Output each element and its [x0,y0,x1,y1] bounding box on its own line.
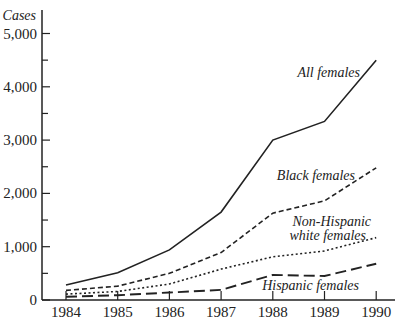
x-tick-label: 1985 [103,304,133,320]
y-tick-label: 3,000 [3,132,37,148]
x-tick-label: 1984 [51,304,82,320]
axes [42,10,395,300]
y-ticks: 01,0002,0003,0004,0005,000 [3,26,50,309]
label-white-females-1: Non-Hispanic [291,214,371,229]
y-axis-title: Cases [3,8,37,23]
line-chart: Cases 01,0002,0003,0004,0005,000 1984198… [0,0,397,325]
y-tick-label: 0 [30,292,38,308]
label-white-females-2: white females [289,228,366,243]
y-tick-label: 5,000 [3,26,37,42]
label-hispanic-females: Hispanic females [261,278,359,293]
x-tick-label: 1990 [361,304,391,320]
x-tick-label: 1986 [154,304,185,320]
x-tick-label: 1987 [206,304,237,320]
y-tick-label: 1,000 [3,239,37,255]
label-all-females: All females [296,65,360,80]
label-black-females: Black females [277,168,356,183]
y-tick-label: 4,000 [3,79,37,95]
y-tick-label: 2,000 [3,185,37,201]
x-tick-label: 1988 [258,304,288,320]
x-tick-label: 1989 [310,304,340,320]
